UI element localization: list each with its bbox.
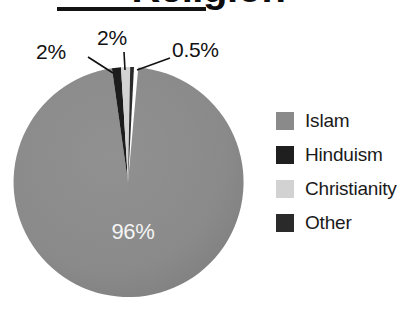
leader-line-other	[137, 58, 170, 70]
chart-legend: Islam Hinduism Christianity Other	[276, 104, 416, 240]
legend-label-hinduism: Hinduism	[305, 144, 383, 166]
legend-swatch-islam	[276, 112, 294, 130]
legend-label-christianity: Christianity	[305, 178, 397, 200]
legend-label-other: Other	[305, 212, 352, 234]
slice-label-islam: 96%	[104, 219, 162, 245]
legend-swatch-other	[276, 214, 294, 232]
slice-label-christianity: 2%	[97, 26, 127, 50]
legend-item-hinduism[interactable]: Hinduism	[276, 138, 416, 172]
leader-line-christianity	[124, 52, 125, 70]
legend-item-christianity[interactable]: Christianity	[276, 172, 416, 206]
legend-swatch-hinduism	[276, 146, 294, 164]
legend-label-islam: Islam	[305, 110, 349, 132]
slice-label-other: 0.5%	[172, 38, 219, 62]
pie-chart-screenshot: Religion	[0, 0, 417, 320]
legend-item-islam[interactable]: Islam	[276, 104, 416, 138]
legend-swatch-christianity	[276, 180, 294, 198]
legend-item-other[interactable]: Other	[276, 206, 416, 240]
slice-label-hinduism: 2%	[36, 40, 66, 64]
